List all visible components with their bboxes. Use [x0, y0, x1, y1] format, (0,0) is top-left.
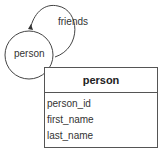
entity-table[interactable]: person person_id first_name last_name — [44, 67, 158, 148]
table-field: first_name — [45, 112, 157, 128]
table-title: person — [45, 68, 157, 93]
arrowhead-icon — [28, 24, 33, 30]
entity-node-label: person — [14, 48, 45, 59]
table-field: last_name — [45, 128, 157, 144]
relationship-label: friends — [58, 16, 88, 27]
table-field: person_id — [45, 96, 157, 112]
